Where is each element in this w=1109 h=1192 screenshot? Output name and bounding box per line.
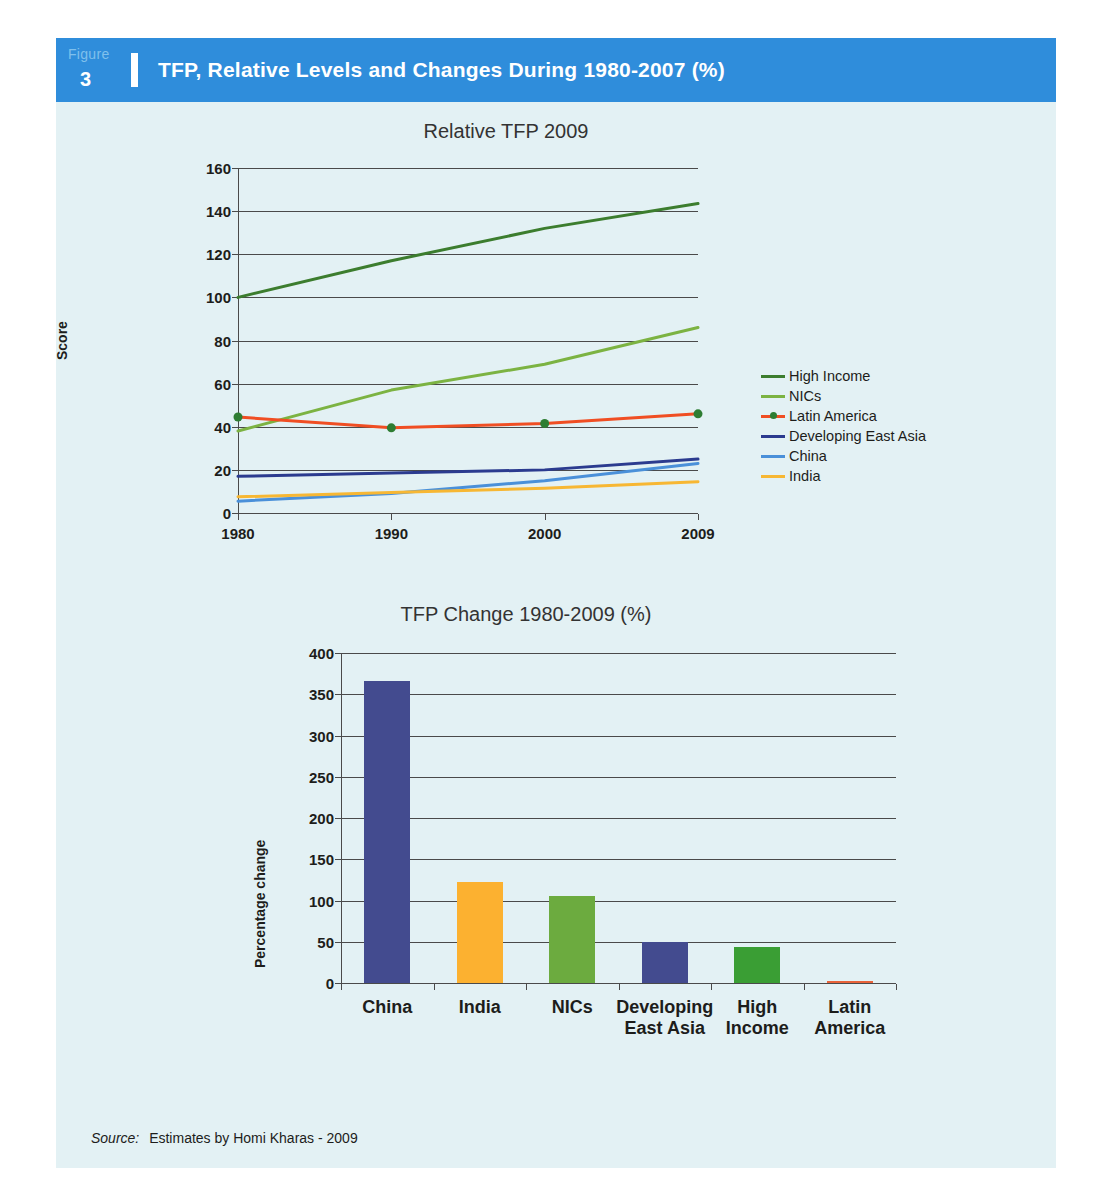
- x-axis-category-label: China: [362, 997, 412, 1018]
- gridline: [341, 736, 896, 737]
- y-axis-tick-label: 40: [214, 418, 231, 435]
- y-axis-tick-label: 20: [214, 461, 231, 478]
- legend-item[interactable]: Latin America: [761, 406, 926, 426]
- y-axis-tick-label: 120: [206, 246, 231, 263]
- y-axis-tick-label: 150: [309, 851, 334, 868]
- x-axis-tick: [434, 984, 435, 990]
- line-series-group: [238, 168, 710, 525]
- line-series: [238, 482, 698, 497]
- legend-item-label: Latin America: [789, 408, 877, 424]
- y-axis-tick-label: 50: [317, 933, 334, 950]
- y-axis-tick-label: 160: [206, 160, 231, 177]
- line-chart-y-axis-title: Score: [54, 321, 70, 360]
- source-text: Estimates by Homi Kharas - 2009: [149, 1130, 358, 1146]
- x-axis-tick-label: 2000: [528, 525, 561, 542]
- bar-chart-plot-area: 050100150200250300350400ChinaIndiaNICsDe…: [341, 653, 896, 983]
- tfp-change-bar-chart: TFP Change 1980-2009 (%) Percentage chan…: [56, 603, 1056, 1123]
- figure-header-bar: Figure 3 TFP, Relative Levels and Change…: [56, 38, 1056, 102]
- legend-color-swatch: [761, 455, 785, 458]
- bar[interactable]: [549, 896, 595, 983]
- y-axis-tick-label: 250: [309, 768, 334, 785]
- bar-chart-title: TFP Change 1980-2009 (%): [26, 603, 1026, 626]
- legend-item-label: Developing East Asia: [789, 428, 926, 444]
- y-axis-tick-label: 0: [223, 505, 231, 522]
- legend-item-label: NICs: [789, 388, 821, 404]
- bar-chart-y-axis-title: Percentage change: [252, 840, 268, 968]
- y-axis-tick-label: 200: [309, 810, 334, 827]
- legend-marker-dot: [770, 412, 777, 419]
- figure-label: Figure: [68, 46, 109, 62]
- x-axis-tick: [804, 984, 805, 990]
- line-chart-title: Relative TFP 2009: [6, 120, 1006, 143]
- bar[interactable]: [827, 981, 873, 983]
- gridline: [341, 694, 896, 695]
- figure-title: TFP, Relative Levels and Changes During …: [158, 58, 725, 82]
- y-axis-tick-label: 80: [214, 332, 231, 349]
- x-axis-tick: [526, 984, 527, 990]
- header-divider: [131, 53, 138, 87]
- figure-page: Figure 3 TFP, Relative Levels and Change…: [0, 0, 1109, 1192]
- source-prefix: Source:: [91, 1130, 139, 1146]
- legend-item[interactable]: High Income: [761, 366, 926, 386]
- x-axis-category-label: NICs: [552, 997, 593, 1018]
- legend-item-label: India: [789, 468, 820, 484]
- x-axis-category-label: LatinAmerica: [814, 997, 885, 1038]
- line-chart-legend: High IncomeNICsLatin AmericaDeveloping E…: [761, 366, 926, 486]
- x-axis-tick: [896, 984, 897, 990]
- legend-color-swatch: [761, 395, 785, 398]
- line-chart-plot-area: 0204060801001201401601980199020002009: [238, 168, 698, 513]
- bar[interactable]: [364, 681, 410, 983]
- legend-color-swatch: [761, 435, 785, 438]
- bar[interactable]: [642, 942, 688, 983]
- source-note: Source: Estimates by Homi Kharas - 2009: [91, 1130, 358, 1146]
- line-data-point: [387, 423, 396, 432]
- legend-item-label: China: [789, 448, 827, 464]
- legend-color-swatch: [761, 415, 785, 418]
- line-data-point: [694, 409, 703, 418]
- gridline: [341, 859, 896, 860]
- legend-item[interactable]: Developing East Asia: [761, 426, 926, 446]
- x-axis-tick-label: 2009: [681, 525, 714, 542]
- y-axis-tick-label: 300: [309, 727, 334, 744]
- relative-tfp-line-chart: Relative TFP 2009 Score 0204060801001201…: [56, 120, 1056, 580]
- y-axis-tick-label: 60: [214, 375, 231, 392]
- gridline: [341, 777, 896, 778]
- line-data-point: [540, 419, 549, 428]
- legend-item[interactable]: NICs: [761, 386, 926, 406]
- bar[interactable]: [734, 947, 780, 983]
- figure-panel: Figure 3 TFP, Relative Levels and Change…: [56, 38, 1056, 1168]
- y-axis-line: [341, 653, 342, 983]
- bar[interactable]: [457, 882, 503, 983]
- gridline: [341, 818, 896, 819]
- legend-item-label: High Income: [789, 368, 870, 384]
- legend-color-swatch: [761, 475, 785, 478]
- figure-number-block: Figure 3: [56, 38, 131, 102]
- x-axis-tick: [341, 984, 342, 990]
- line-series: [238, 204, 698, 298]
- y-axis-tick-label: 350: [309, 686, 334, 703]
- line-series: [238, 414, 698, 428]
- line-series: [238, 328, 698, 432]
- y-axis-tick-label: 400: [309, 645, 334, 662]
- x-axis-category-label: HighIncome: [726, 997, 789, 1038]
- gridline: [341, 653, 896, 654]
- x-axis-category-label: DevelopingEast Asia: [616, 997, 713, 1038]
- legend-item[interactable]: India: [761, 466, 926, 486]
- x-axis-tick-label: 1980: [221, 525, 254, 542]
- x-axis-tick-label: 1990: [375, 525, 408, 542]
- x-axis-tick: [619, 984, 620, 990]
- y-axis-tick-label: 140: [206, 203, 231, 220]
- y-axis-tick-label: 100: [309, 892, 334, 909]
- x-axis-category-label: India: [459, 997, 501, 1018]
- y-axis-tick-label: 100: [206, 289, 231, 306]
- legend-color-swatch: [761, 375, 785, 378]
- line-data-point: [234, 413, 243, 422]
- gridline: [341, 942, 896, 943]
- legend-item[interactable]: China: [761, 446, 926, 466]
- line-series: [238, 459, 698, 476]
- gridline: [341, 901, 896, 902]
- figure-number: 3: [80, 68, 91, 91]
- x-axis-tick: [711, 984, 712, 990]
- y-axis-tick-label: 0: [326, 975, 334, 992]
